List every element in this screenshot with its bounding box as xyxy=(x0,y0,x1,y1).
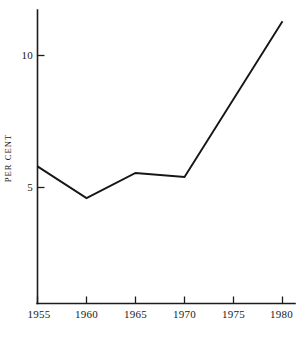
x-tick-label-1960: 1960 xyxy=(75,308,98,320)
data-series-line xyxy=(38,21,283,198)
x-tick-label-1975: 1975 xyxy=(222,308,245,320)
x-tick-label-1980: 1980 xyxy=(270,308,293,320)
y-tick-label-10: 10 xyxy=(22,49,34,61)
y-axis-title: PER CENT xyxy=(3,134,13,183)
line-chart: PER CENT 5 10 1955 1960 1965 1970 1975 1… xyxy=(0,0,302,338)
x-tick-label-1955: 1955 xyxy=(28,308,51,320)
x-tick-label-1970: 1970 xyxy=(173,308,196,320)
x-axis-ticks: 1955 1960 1965 1970 1975 1980 xyxy=(28,297,294,321)
y-axis-ticks: 5 10 xyxy=(22,49,45,193)
x-tick-label-1965: 1965 xyxy=(124,308,147,320)
y-tick-label-5: 5 xyxy=(27,181,33,193)
chart-container: PER CENT 5 10 1955 1960 1965 1970 1975 1… xyxy=(0,0,302,338)
